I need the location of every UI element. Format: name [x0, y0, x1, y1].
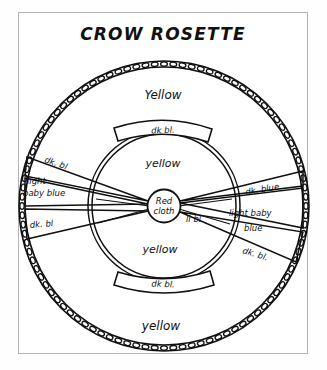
- label-left-upper-spoke: dk. bl: [43, 154, 69, 171]
- label-outer-top-yellow: Yellow: [144, 88, 181, 102]
- label-right-middle-spoke-line1: light baby: [229, 208, 273, 218]
- label-band-bottom: dk bl.: [151, 279, 175, 290]
- label-inner-top-yellow: yellow: [144, 157, 180, 170]
- label-right-middle-spoke-line2: blue: [244, 223, 262, 233]
- label-left-middle-spoke-line2: baby blue: [23, 188, 65, 198]
- center-label-line2: cloth: [154, 206, 175, 216]
- rosette-drawing: CROW ROSETTE: [0, 0, 327, 370]
- screenshot-page: CROW ROSETTE: [0, 0, 327, 370]
- label-center-right-small: li bl: [186, 214, 202, 224]
- label-left-middle-spoke-line1: light: [27, 176, 47, 186]
- label-band-top: dk bl.: [151, 125, 175, 136]
- label-outer-bottom-yellow: yellow: [141, 319, 180, 333]
- label-left-lower-spoke: dk. bl: [29, 218, 54, 230]
- center-label-line1: Red: [156, 196, 173, 206]
- label-inner-bottom-yellow: yellow: [141, 243, 177, 256]
- page-title: CROW ROSETTE: [80, 24, 246, 44]
